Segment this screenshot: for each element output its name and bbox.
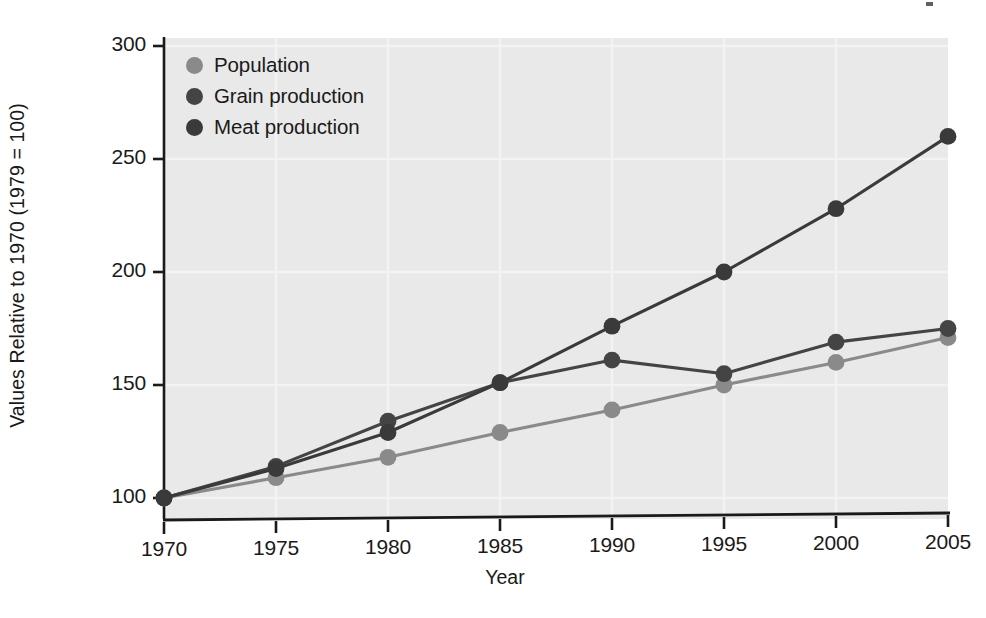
legend-item-label: Meat production	[214, 115, 360, 139]
legend-marker-icon	[186, 88, 203, 105]
data-point-marker	[828, 334, 845, 351]
legend-item-label: Grain production	[214, 84, 364, 108]
data-point-marker	[828, 200, 845, 217]
data-point-marker	[492, 374, 509, 391]
legend-marker-icon	[186, 57, 203, 74]
x-axis-label-text: Year	[485, 566, 524, 588]
data-point-marker	[828, 354, 845, 371]
y-tick-label: 300	[74, 32, 146, 56]
x-tick-label: 1970	[119, 537, 209, 561]
x-tick-label: 2005	[903, 530, 986, 554]
chart-legend: PopulationGrain productionMeat productio…	[186, 52, 364, 140]
chart-figure: Values Relative to 1970 (1979 = 100) 100…	[0, 0, 986, 618]
data-point-marker	[380, 449, 397, 466]
x-axis-label: Year	[0, 566, 986, 589]
data-point-marker	[716, 264, 733, 281]
data-point-marker	[380, 424, 397, 441]
y-tick-label: 250	[74, 145, 146, 169]
x-tick-label: 1975	[231, 536, 321, 560]
legend-item-label: Population	[214, 53, 310, 77]
data-point-marker	[604, 352, 621, 369]
legend-marker-icon	[186, 119, 203, 136]
x-tick-label: 1985	[455, 534, 545, 558]
plot-area	[0, 0, 986, 618]
x-tick-label: 1990	[567, 533, 657, 557]
data-point-marker	[492, 424, 509, 441]
data-point-marker	[940, 128, 957, 145]
scan-artifact-speck	[926, 2, 933, 6]
x-tick-label: 2000	[791, 531, 881, 555]
data-point-marker	[156, 490, 173, 507]
data-point-marker	[604, 318, 621, 335]
y-tick-label: 100	[74, 484, 146, 508]
legend-item: Grain production	[186, 83, 364, 109]
y-tick-label: 200	[74, 258, 146, 282]
y-tick-label: 150	[74, 371, 146, 395]
data-point-marker	[716, 365, 733, 382]
data-point-marker	[940, 320, 957, 337]
data-point-marker	[268, 460, 285, 477]
x-tick-label: 1995	[679, 532, 769, 556]
x-tick-label: 1980	[343, 535, 433, 559]
data-point-marker	[604, 402, 621, 419]
legend-item: Population	[186, 52, 364, 78]
legend-item: Meat production	[186, 114, 364, 140]
